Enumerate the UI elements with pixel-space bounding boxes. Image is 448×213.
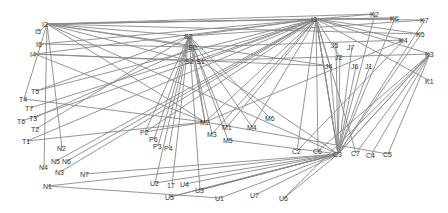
edge-k3-c4 <box>371 54 430 155</box>
node-i5: I5 <box>35 28 41 35</box>
node-k3: K3 <box>425 51 434 58</box>
node-c2: C2 <box>292 148 301 155</box>
node-label: K7 <box>420 17 429 24</box>
node-label: I3 <box>311 16 317 23</box>
node-label: N4 <box>39 164 48 171</box>
edge-i2-n4 <box>44 24 47 167</box>
node-m5: M5 <box>223 137 233 144</box>
node-label: P4 <box>164 145 173 152</box>
node-label: S3 <box>184 33 193 40</box>
node-s1: S1 <box>196 58 205 65</box>
edge-s0-k4 <box>193 40 404 47</box>
node-label: K1 <box>425 78 434 85</box>
node-label: T4 <box>19 96 27 103</box>
node-label: K6 <box>390 15 399 22</box>
node-label: N3 <box>55 169 64 176</box>
node-j7: J7 <box>347 44 355 51</box>
node-n7: N7 <box>80 171 89 178</box>
node-label: U2 <box>150 180 159 187</box>
node-m6: M6 <box>265 115 275 122</box>
node-i2: I2 <box>42 21 48 28</box>
node-j2: J2 <box>335 54 343 61</box>
node-k6: K6 <box>390 15 399 22</box>
edge-i3-m3 <box>212 19 316 134</box>
node-label: J6 <box>351 63 359 70</box>
node-k7: K7 <box>420 17 429 24</box>
node-t5: T5 <box>31 88 39 95</box>
edge-i3-m4 <box>252 19 316 127</box>
node-label: U5 <box>165 194 174 201</box>
node-label: M3 <box>207 131 217 138</box>
node-m3: M3 <box>207 131 217 138</box>
node-t1: T1 <box>22 138 30 145</box>
node-label: I6 <box>36 41 42 48</box>
edge-k3-u6 <box>284 54 430 198</box>
node-label: P2 <box>140 129 149 136</box>
node-i3: I3 <box>311 16 317 23</box>
node-label: U3 <box>195 187 204 194</box>
edge-k3-c5 <box>388 54 430 154</box>
node-t7: T7 <box>25 105 33 112</box>
node-label: U7 <box>250 192 259 199</box>
edge-i3-c3 <box>316 19 338 154</box>
node-k4: K4 <box>399 37 408 44</box>
node-label: C3 <box>333 151 342 158</box>
node-m1: M1 <box>222 124 232 131</box>
node-u2: U2 <box>150 180 159 187</box>
node-n4: N4 <box>39 164 48 171</box>
node-label: J2 <box>335 54 343 61</box>
node-k5: K5 <box>416 31 425 38</box>
node-c5: C5 <box>383 151 392 158</box>
node-label: C5 <box>383 151 392 158</box>
node-t4: T4 <box>19 96 27 103</box>
node-t6: T6 <box>17 118 25 125</box>
node-t3: T3 <box>29 115 37 122</box>
node-label: M2 <box>200 119 210 126</box>
node-u7: U7 <box>250 192 259 199</box>
node-label: S2 <box>185 58 194 65</box>
node-label: I2 <box>42 21 48 28</box>
edge-i3-k7 <box>316 19 425 20</box>
node-label: K5 <box>416 31 425 38</box>
edge-n5-i3 <box>56 19 316 161</box>
node-label: I4 <box>30 51 36 58</box>
node-i6: I6 <box>36 41 42 48</box>
node-label: T7 <box>25 105 33 112</box>
node-i4: I4 <box>30 51 36 58</box>
node-label: M4 <box>247 124 257 131</box>
node-label: P6 <box>149 136 158 143</box>
node-label: I5 <box>35 28 41 35</box>
node-label: M1 <box>222 124 232 131</box>
node-u5: U5 <box>165 194 174 201</box>
edge-k2-c3 <box>338 14 375 154</box>
node-label: P3 <box>153 143 162 150</box>
node-n5: N5 <box>51 158 60 165</box>
node-p3: P3 <box>153 143 162 150</box>
node-label: U4 <box>180 181 189 188</box>
node-label: M5 <box>223 137 233 144</box>
node-u3: U3 <box>195 187 204 194</box>
node-label: T2 <box>31 126 39 133</box>
node-n1: N1 <box>43 183 52 190</box>
node-label: S1 <box>196 58 205 65</box>
node-j5: J5 <box>331 42 339 49</box>
node-s2: S2 <box>185 58 194 65</box>
node-t2: T2 <box>31 126 39 133</box>
node-label: M6 <box>265 115 275 122</box>
node-label: J4 <box>325 63 333 70</box>
node-label: J5 <box>331 42 339 49</box>
node-label: N2 <box>57 145 66 152</box>
node-label: K3 <box>425 51 434 58</box>
node-label: C7 <box>351 150 360 157</box>
node-j4: J4 <box>325 63 333 70</box>
node-label: U1 <box>215 195 224 202</box>
edge-c3-u4 <box>185 154 338 184</box>
node-p6: P6 <box>149 136 158 143</box>
node-n2: N2 <box>57 145 66 152</box>
node-label: N7 <box>80 171 89 178</box>
node-c3: C3 <box>333 151 342 158</box>
edge-k7-c3 <box>338 20 425 154</box>
node-u4: U4 <box>180 181 189 188</box>
node-label: C4 <box>366 152 375 159</box>
node-k1: K1 <box>425 78 434 85</box>
